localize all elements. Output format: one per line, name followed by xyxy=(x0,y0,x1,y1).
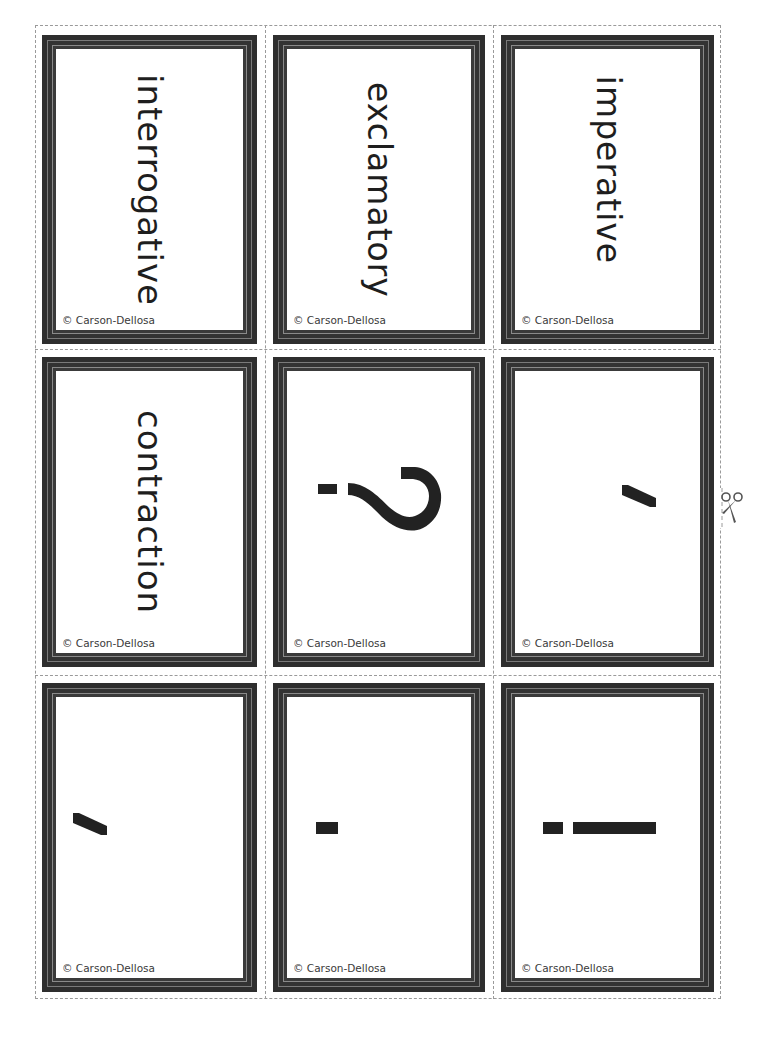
card-period: © Carson-Dellosa xyxy=(273,683,485,992)
card-word: exclamatory xyxy=(360,82,399,298)
cut-line-horizontal xyxy=(35,675,721,676)
card-comma: © Carson-Dellosa xyxy=(42,683,257,992)
copyright-label: © Carson-Dellosa xyxy=(293,962,386,974)
exclamation-bar xyxy=(573,822,656,834)
copyright-label: © Carson-Dellosa xyxy=(521,314,614,326)
card-face: contraction © Carson-Dellosa xyxy=(56,371,243,653)
cut-line-horizontal xyxy=(35,349,721,350)
card-face: exclamatory © Carson-Dellosa xyxy=(287,49,471,330)
apostrophe-icon xyxy=(621,484,661,510)
card-face: © Carson-Dellosa xyxy=(56,697,243,978)
card-face: © Carson-Dellosa xyxy=(515,371,700,653)
card-question-mark: © Carson-Dellosa xyxy=(273,357,485,667)
card-word: contraction xyxy=(130,410,170,614)
card-word: interrogative xyxy=(130,74,170,306)
card-imperative: imperative © Carson-Dellosa xyxy=(501,35,714,344)
card-face: imperative © Carson-Dellosa xyxy=(515,49,700,330)
copyright-label: © Carson-Dellosa xyxy=(62,314,155,326)
card-contraction: contraction © Carson-Dellosa xyxy=(42,357,257,667)
card-exclamatory: exclamatory © Carson-Dellosa xyxy=(273,35,485,344)
copyright-label: © Carson-Dellosa xyxy=(521,637,614,649)
scissors-icon xyxy=(717,488,747,528)
period-icon xyxy=(316,822,338,834)
copyright-label: © Carson-Dellosa xyxy=(293,314,386,326)
copyright-label: © Carson-Dellosa xyxy=(62,962,155,974)
card-word: imperative xyxy=(588,76,627,264)
card-interrogative: interrogative © Carson-Dellosa xyxy=(42,35,257,344)
copyright-label: © Carson-Dellosa xyxy=(62,637,155,649)
comma-icon xyxy=(72,812,112,838)
cut-line-vertical xyxy=(265,25,266,999)
card-face: © Carson-Dellosa xyxy=(287,697,471,978)
card-apostrophe: © Carson-Dellosa xyxy=(501,357,714,667)
card-face: © Carson-Dellosa xyxy=(287,371,471,653)
copyright-label: © Carson-Dellosa xyxy=(293,637,386,649)
exclamation-dot xyxy=(543,822,563,834)
copyright-label: © Carson-Dellosa xyxy=(521,962,614,974)
card-face: © Carson-Dellosa xyxy=(515,697,700,978)
cut-line-vertical xyxy=(493,25,494,999)
card-exclamation-mark: © Carson-Dellosa xyxy=(501,683,714,992)
question-mark-icon xyxy=(315,467,445,547)
card-face: interrogative © Carson-Dellosa xyxy=(56,49,243,330)
